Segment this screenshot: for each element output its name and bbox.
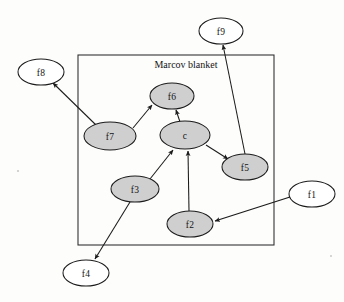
- node-f5[interactable]: f5: [222, 154, 268, 180]
- node-label-f9: f9: [217, 27, 225, 37]
- node-f1[interactable]: f1: [289, 181, 335, 207]
- node-label-f5: f5: [241, 163, 249, 173]
- node-label-f2: f2: [186, 220, 194, 230]
- edge-f3-to-f4: [95, 202, 130, 259]
- node-label-c: c: [183, 131, 187, 141]
- edge-c-to-f6: [176, 110, 180, 122]
- blanket-label: Marcov blanket: [154, 59, 217, 70]
- node-f8[interactable]: f8: [18, 59, 64, 85]
- node-label-f4: f4: [82, 269, 90, 279]
- edge-f3-to-c: [150, 150, 173, 179]
- node-f4[interactable]: f4: [63, 260, 109, 286]
- markov-blanket-diagram: Marcov blanket f8f9f6f7cf5f3f2f1f4: [0, 0, 344, 302]
- node-f6[interactable]: f6: [150, 83, 194, 109]
- node-label-f1: f1: [308, 190, 316, 200]
- node-f3[interactable]: f3: [111, 176, 159, 202]
- node-f9[interactable]: f9: [199, 18, 243, 44]
- node-label-f7: f7: [106, 132, 114, 142]
- edge-f2-to-c: [188, 151, 189, 211]
- paper-speck: [17, 170, 19, 172]
- edge-f7-to-f6: [133, 105, 152, 128]
- edge-c-to-f5: [206, 145, 228, 159]
- node-label-f8: f8: [37, 68, 45, 78]
- diagram-canvas: Marcov blanket f8f9f6f7cf5f3f2f1f4: [0, 0, 344, 302]
- edge-f7-to-f8: [53, 83, 96, 125]
- node-f7[interactable]: f7: [84, 122, 136, 150]
- node-label-f6: f6: [168, 92, 176, 102]
- node-label-f3: f3: [131, 185, 139, 195]
- edge-f1-to-f2: [215, 197, 290, 221]
- node-f2[interactable]: f2: [167, 211, 213, 237]
- edge-f5-to-f9: [223, 45, 245, 154]
- paper-speck: [330, 255, 332, 257]
- node-c[interactable]: c: [160, 121, 210, 149]
